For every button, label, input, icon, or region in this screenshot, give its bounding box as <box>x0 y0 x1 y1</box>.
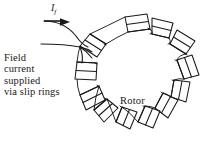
rotor-pole-block <box>170 30 195 54</box>
field-current-subscript: f <box>54 8 56 16</box>
rotor-pole-ring <box>75 14 199 129</box>
rotor-pole-block <box>171 80 190 102</box>
rotor-pole-block <box>80 86 105 110</box>
rotor-pole-block <box>80 34 106 57</box>
caption-line: supplied <box>4 75 78 86</box>
rotor-pole-block <box>125 14 150 32</box>
field-current-arrow <box>44 18 70 26</box>
caption-line: via slip rings <box>4 86 78 97</box>
field-current-label: If <box>51 2 56 16</box>
field-lead-branch <box>80 47 82 63</box>
field-supply-caption: Field current supplied via slip rings <box>4 52 78 98</box>
rotor-pole-block <box>75 62 97 80</box>
rotor-label: Rotor <box>120 95 145 106</box>
caption-line: Field <box>4 52 78 63</box>
rotor-pole-block <box>177 55 199 79</box>
caption-line: current <box>4 63 78 74</box>
field-lead-upper <box>44 21 88 47</box>
rotor-field-winding-diagram: If Field current supplied via slip rings… <box>0 0 213 144</box>
rotor-pole-block <box>152 18 173 38</box>
